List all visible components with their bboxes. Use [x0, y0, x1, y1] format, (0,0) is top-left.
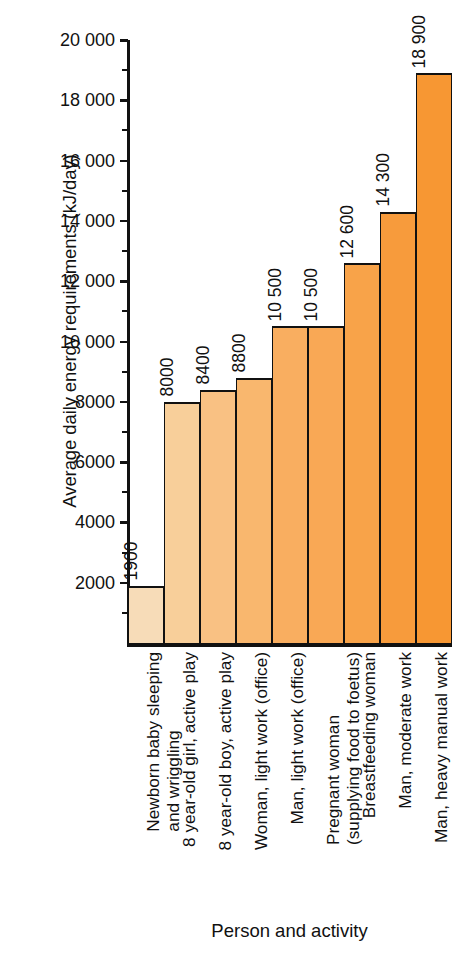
x-axis-title: Person and activity — [127, 920, 452, 942]
bar-value-label: 8400 — [195, 346, 213, 385]
bar-slot: 12 600 — [344, 40, 380, 643]
y-axis-major-tick — [120, 341, 128, 344]
bar-value-label: 8000 — [159, 358, 177, 397]
x-axis-category-label: Woman, light work (office) — [252, 652, 272, 850]
y-axis-tick-label: 4000 — [75, 512, 115, 533]
plot-area: 200040006000800010 00012 00014 00016 000… — [127, 40, 452, 646]
y-axis-major-tick — [120, 220, 128, 223]
bar: 8800 — [236, 378, 272, 643]
bar-value-label: 12 600 — [339, 205, 357, 259]
bar-value-label: 1900 — [123, 542, 141, 581]
x-axis-category-label: 8 year-old girl, active play — [180, 652, 200, 847]
x-axis-category: Man, moderate work — [380, 652, 416, 910]
x-axis-category: Pregnant woman(supplying food to foetus) — [308, 652, 344, 910]
y-axis-tick-label: 14 000 — [60, 210, 115, 231]
y-axis-tick-label: 16 000 — [60, 150, 115, 171]
bar-value-label: 18 900 — [411, 15, 429, 69]
x-axis-category-line: Man, heavy manual work — [432, 652, 452, 843]
y-axis-tick-label: 10 000 — [60, 331, 115, 352]
bar: 10 500 — [272, 326, 308, 643]
bar-slot: 10 500 — [308, 40, 344, 643]
x-axis-category-label: Man, light work (office) — [288, 652, 308, 825]
bar: 1900 — [128, 586, 164, 643]
y-axis-tick-label: 12 000 — [60, 271, 115, 292]
bar-series: 190080008400880010 50010 50012 60014 300… — [128, 40, 452, 643]
y-axis-tick-label: 2000 — [75, 572, 115, 593]
bar: 8000 — [164, 402, 200, 643]
bar-value-label: 10 500 — [303, 268, 321, 322]
x-axis-category-labels: Newborn baby sleepingand wriggling8 year… — [128, 652, 452, 910]
bar-slot: 8000 — [164, 40, 200, 643]
x-axis-category: Breastfeeding woman — [344, 652, 380, 910]
x-axis-category: Man, heavy manual work — [416, 652, 452, 910]
x-axis-category: Woman, light work (office) — [236, 652, 272, 910]
bar-value-label: 14 300 — [375, 153, 393, 207]
bar-slot: 8800 — [236, 40, 272, 643]
y-axis-major-tick — [120, 521, 128, 524]
y-axis-major-tick — [120, 582, 128, 585]
y-axis-major-tick — [120, 160, 128, 163]
x-axis-category: Man, light work (office) — [272, 652, 308, 910]
x-axis-category-line: Woman, light work (office) — [252, 652, 272, 850]
x-axis-category-label: 8 year-old boy, active play — [216, 652, 236, 850]
y-axis-tick-label: 6000 — [75, 452, 115, 473]
y-axis-major-tick — [120, 461, 128, 464]
bar-value-label: 10 500 — [267, 268, 285, 322]
y-axis-major-tick — [120, 280, 128, 283]
x-axis-line — [127, 643, 452, 647]
y-axis-major-tick — [120, 99, 128, 102]
x-axis-category: 8 year-old boy, active play — [200, 652, 236, 910]
x-axis-category-line: Man, light work (office) — [288, 652, 308, 825]
bar-slot: 14 300 — [380, 40, 416, 643]
y-axis-tick-label: 8000 — [75, 391, 115, 412]
bar: 12 600 — [344, 263, 380, 643]
x-axis-category-line: Newborn baby sleeping — [144, 652, 164, 832]
y-axis-tick-label: 18 000 — [60, 90, 115, 111]
x-axis-category: 8 year-old girl, active play — [164, 652, 200, 910]
x-axis-category-line: Breastfeeding woman — [360, 652, 380, 818]
bar-slot: 1900 — [128, 40, 164, 643]
x-axis-category-label: Man, heavy manual work — [432, 652, 452, 843]
x-axis-category-line: Man, moderate work — [396, 652, 416, 809]
x-axis-category-line: Pregnant woman — [324, 652, 344, 845]
bar: 8400 — [200, 390, 236, 643]
bar: 10 500 — [308, 326, 344, 643]
bar-value-label: 8800 — [231, 334, 249, 373]
x-axis-category: Newborn baby sleepingand wriggling — [128, 652, 164, 910]
x-axis-category-line: 8 year-old boy, active play — [216, 652, 236, 850]
y-axis-tick-label: 20 000 — [60, 30, 115, 51]
bar-slot: 10 500 — [272, 40, 308, 643]
x-axis-category-label: Breastfeeding woman — [360, 652, 380, 818]
y-axis-major-tick — [120, 401, 128, 404]
y-axis-major-tick — [120, 39, 128, 42]
x-axis-category-label: Man, moderate work — [396, 652, 416, 809]
x-axis-category-line: 8 year-old girl, active play — [180, 652, 200, 847]
bar: 14 300 — [380, 212, 416, 643]
bar: 18 900 — [416, 73, 452, 643]
energy-requirements-bar-chart: Average daily energy requirements (kJ/da… — [0, 0, 459, 954]
bar-slot: 18 900 — [416, 40, 452, 643]
